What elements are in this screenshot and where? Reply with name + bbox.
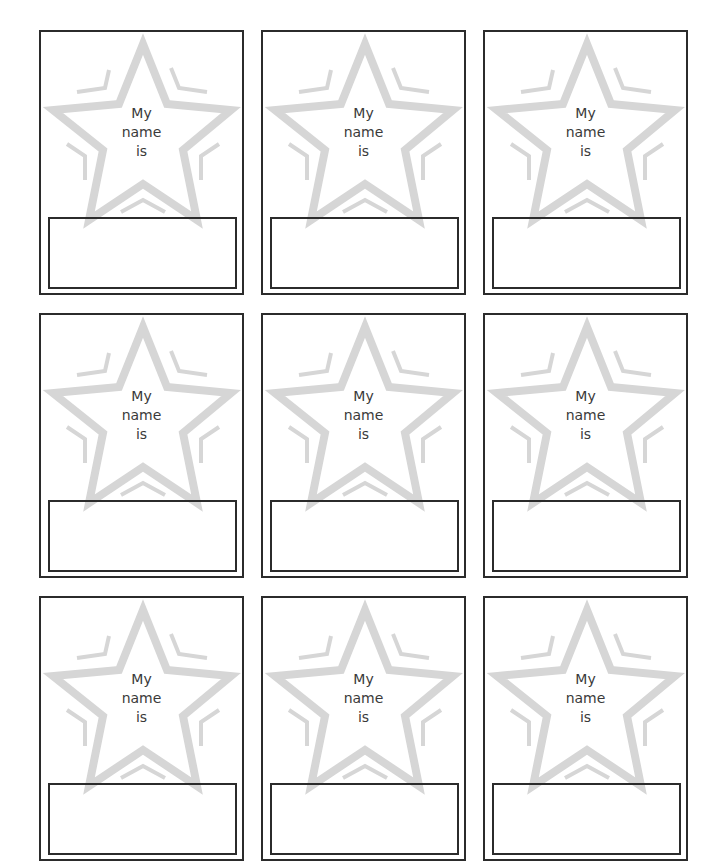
label-line-my: My	[263, 670, 464, 689]
name-write-box[interactable]	[270, 500, 459, 572]
label-line-my: My	[485, 670, 686, 689]
label-line-is: is	[263, 708, 464, 727]
name-write-box[interactable]	[492, 783, 681, 855]
name-write-box[interactable]	[48, 500, 237, 572]
label-line-is: is	[263, 425, 464, 444]
name-write-box[interactable]	[48, 783, 237, 855]
my-name-is-label: My name is	[485, 104, 686, 161]
label-line-is: is	[41, 142, 242, 161]
my-name-is-label: My name is	[41, 104, 242, 161]
label-line-name: name	[485, 123, 686, 142]
label-line-my: My	[263, 387, 464, 406]
label-line-my: My	[41, 670, 242, 689]
my-name-is-label: My name is	[41, 670, 242, 727]
name-write-box[interactable]	[492, 217, 681, 289]
my-name-is-label: My name is	[41, 387, 242, 444]
label-line-name: name	[263, 406, 464, 425]
my-name-is-label: My name is	[263, 387, 464, 444]
label-line-name: name	[41, 406, 242, 425]
label-line-my: My	[485, 104, 686, 123]
name-tag-card: My name is	[483, 596, 688, 861]
my-name-is-label: My name is	[485, 670, 686, 727]
name-write-box[interactable]	[270, 217, 459, 289]
my-name-is-label: My name is	[263, 104, 464, 161]
label-line-name: name	[263, 689, 464, 708]
name-tag-card: My name is	[483, 30, 688, 295]
my-name-is-label: My name is	[485, 387, 686, 444]
label-line-my: My	[41, 104, 242, 123]
label-line-is: is	[263, 142, 464, 161]
label-line-my: My	[41, 387, 242, 406]
name-write-box[interactable]	[492, 500, 681, 572]
name-tag-card: My name is	[39, 596, 244, 861]
label-line-is: is	[41, 425, 242, 444]
name-tag-card: My name is	[261, 30, 466, 295]
label-line-name: name	[41, 689, 242, 708]
label-line-is: is	[485, 708, 686, 727]
label-line-is: is	[485, 425, 686, 444]
label-line-name: name	[41, 123, 242, 142]
name-tag-card: My name is	[261, 313, 466, 578]
name-tag-card: My name is	[39, 313, 244, 578]
name-write-box[interactable]	[48, 217, 237, 289]
name-tag-card: My name is	[483, 313, 688, 578]
name-tag-card: My name is	[261, 596, 466, 861]
label-line-name: name	[485, 689, 686, 708]
name-write-box[interactable]	[270, 783, 459, 855]
label-line-name: name	[263, 123, 464, 142]
my-name-is-label: My name is	[263, 670, 464, 727]
label-line-is: is	[41, 708, 242, 727]
label-line-my: My	[263, 104, 464, 123]
label-line-my: My	[485, 387, 686, 406]
name-tag-card: My name is	[39, 30, 244, 295]
label-line-is: is	[485, 142, 686, 161]
label-line-name: name	[485, 406, 686, 425]
